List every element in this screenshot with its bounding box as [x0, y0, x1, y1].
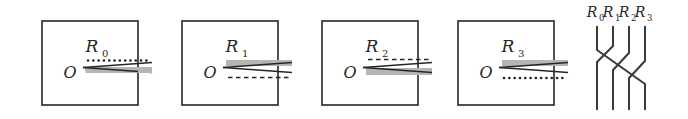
- region-label-R2-subscript: 2: [382, 48, 388, 59]
- figure-container: R 0 O R 1 O: [0, 0, 688, 119]
- region-panel-R1-graphic: R 1 O: [170, 10, 300, 115]
- braid-diagram-graphic: R 0 R 1 R 2 R 3: [576, 0, 688, 119]
- braid-label-R3: R: [634, 4, 646, 20]
- region-panel-R0: R 0 O: [30, 10, 160, 115]
- region-label-R0-subscript: 0: [102, 48, 108, 59]
- braid-label-R3-subscript: 3: [647, 13, 652, 23]
- region-label-R1: R: [225, 36, 239, 56]
- braid-strand-labels: R 0 R 1 R 2 R 3: [586, 4, 653, 23]
- region-label-R2: R: [365, 36, 379, 56]
- braid-label-R0: R: [586, 4, 598, 20]
- region-label-R3: R: [501, 36, 515, 56]
- slit-lower-edge-R1: [223, 68, 292, 73]
- origin-label-R1: O: [203, 63, 216, 82]
- origin-label-R3: O: [479, 63, 492, 82]
- braid-label-R2: R: [618, 4, 630, 20]
- origin-label-R2: O: [343, 63, 356, 82]
- region-panel-R0-graphic: R 0 O: [30, 10, 160, 115]
- slit-upper-edge-R0: [83, 63, 152, 68]
- braid-strand-1: [597, 26, 613, 110]
- slit-band-tail-R0: [138, 67, 152, 73]
- braid-label-R1: R: [602, 4, 614, 20]
- region-label-R1-subscript: 1: [242, 48, 248, 59]
- region-panel-R2: R 2 O: [310, 10, 440, 115]
- region-panel-R1: R 1 O: [170, 10, 300, 115]
- slit-lower-edge-R3: [499, 68, 568, 73]
- region-label-R3-subscript: 3: [518, 48, 524, 59]
- braid-diagram: R 0 R 1 R 2 R 3: [576, 0, 688, 119]
- region-box-R2: [322, 21, 418, 105]
- slit-upper-edge-R2: [363, 63, 432, 68]
- region-panel-R3-graphic: R 3 O: [446, 10, 576, 115]
- region-box-R0: [42, 21, 138, 105]
- origin-label-R0: O: [63, 63, 76, 82]
- region-panel-R2-graphic: R 2 O: [310, 10, 440, 115]
- region-panel-R3: R 3 O: [446, 10, 576, 115]
- braid-strand-3: [629, 26, 645, 110]
- region-label-R0: R: [85, 36, 99, 56]
